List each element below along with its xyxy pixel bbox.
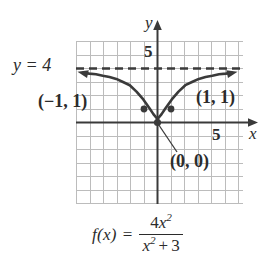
numerator-coefficient: 4 [150, 213, 159, 232]
point-marker-origin [154, 119, 161, 126]
formula-numerator: 4x2 [147, 214, 175, 232]
y-axis-label: y [145, 14, 153, 31]
curve-right-arrowhead [226, 70, 237, 78]
x-axis-tick-label-5: 5 [212, 126, 221, 143]
point-marker-minus1-1 [141, 106, 148, 113]
point-label-origin: (0, 0) [170, 152, 209, 170]
y-axis-arrowhead [153, 20, 162, 30]
curve-left-arrowhead [78, 70, 89, 78]
point-label-minus1-1: (−1, 1) [38, 92, 87, 110]
numerator-exponent: 2 [166, 211, 172, 223]
y-axis-tick-label-5: 5 [144, 43, 153, 60]
denominator-base: x [142, 236, 150, 255]
denominator-exponent: 2 [150, 235, 156, 247]
point-label-1-1: (1, 1) [196, 88, 235, 106]
formula-denominator: x2+3 [139, 237, 182, 255]
formula-equals: = [123, 225, 133, 245]
point-marker-1-1 [168, 106, 175, 113]
axis-lines [76, 26, 252, 204]
function-graph-figure: y x 5 5 y = 4 (−1, 1) (1, 1) (0, 0) f(x)… [0, 0, 268, 276]
denominator-constant: 3 [171, 236, 180, 255]
formula-fraction: 4x2 x2+3 [139, 214, 182, 255]
asymptote-label: y = 4 [13, 56, 51, 74]
origin-leader-line [158, 123, 178, 152]
x-axis-label: x [249, 125, 257, 142]
function-formula: f(x) = 4x2 x2+3 [92, 214, 183, 255]
denominator-plus: + [159, 236, 169, 255]
formula-lhs: f(x) [92, 225, 117, 245]
